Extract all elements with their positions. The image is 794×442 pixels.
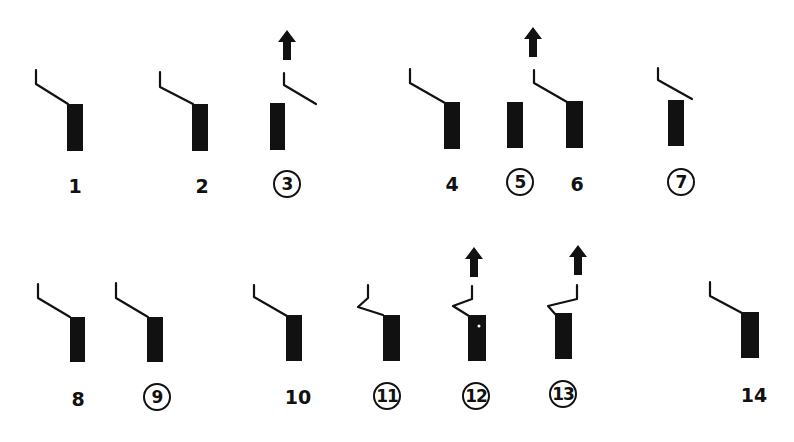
lead-line xyxy=(160,72,193,104)
figure-5 xyxy=(507,27,542,148)
figure-label-9-circled: 9 xyxy=(143,383,171,411)
figure-14 xyxy=(710,282,759,358)
bar xyxy=(555,313,572,359)
figure-2 xyxy=(160,72,208,151)
figure-label-12-circled: 12 xyxy=(462,382,490,410)
figure-label-6: 6 xyxy=(570,175,583,194)
lead-line xyxy=(116,283,148,317)
figure-12 xyxy=(453,247,486,361)
diagram-canvas xyxy=(0,0,794,442)
up-arrow-icon xyxy=(569,245,587,275)
bar xyxy=(270,103,285,150)
figure-4 xyxy=(410,69,460,149)
figure-label-4: 4 xyxy=(445,175,458,194)
lead-line xyxy=(254,285,287,316)
figure-label-7-circled: 7 xyxy=(667,168,695,196)
figure-9 xyxy=(116,283,163,362)
bar xyxy=(147,317,163,362)
figure-label-10: 10 xyxy=(285,388,311,407)
figure-label-8: 8 xyxy=(71,390,84,409)
lead-line xyxy=(358,285,383,315)
figure-8 xyxy=(38,284,85,362)
figure-label-13-circled: 13 xyxy=(549,380,577,408)
lead-line xyxy=(548,285,577,315)
up-arrow-icon xyxy=(524,27,542,57)
bar xyxy=(468,315,486,361)
figure-label-11-circled: 11 xyxy=(373,382,401,410)
figure-10 xyxy=(254,285,302,361)
figure-1 xyxy=(36,70,83,151)
bar xyxy=(192,104,208,151)
lead-line xyxy=(284,73,316,104)
bar xyxy=(444,102,460,149)
figure-7 xyxy=(658,68,692,146)
figure-label-2: 2 xyxy=(195,177,208,196)
bar xyxy=(741,312,759,358)
lead-line xyxy=(36,70,68,104)
lead-line xyxy=(410,69,445,103)
bar xyxy=(668,100,684,146)
lead-line xyxy=(710,282,742,313)
lead-line xyxy=(453,286,472,316)
figure-13 xyxy=(548,245,587,359)
bar xyxy=(67,104,83,151)
bar xyxy=(507,102,523,148)
figure-label-14: 14 xyxy=(741,386,767,405)
figure-11 xyxy=(358,285,400,361)
dot-mark xyxy=(478,325,481,328)
figure-3 xyxy=(270,30,316,150)
bar xyxy=(70,317,85,362)
bar xyxy=(566,101,583,148)
lead-line xyxy=(534,70,567,102)
up-arrow-icon xyxy=(278,30,296,60)
bar xyxy=(383,315,400,361)
figure-label-5-circled: 5 xyxy=(506,168,534,196)
up-arrow-icon xyxy=(465,247,483,277)
bar xyxy=(286,315,302,361)
figure-6 xyxy=(534,70,583,148)
lead-line xyxy=(38,284,70,317)
figure-label-3-circled: 3 xyxy=(273,170,301,198)
lead-line xyxy=(658,68,692,99)
figure-label-1: 1 xyxy=(68,177,81,196)
